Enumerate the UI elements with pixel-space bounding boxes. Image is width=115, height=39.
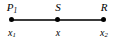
coordinate-label-x-letter: x [56, 27, 60, 38]
coordinate-label-x1-subscript: 1 [13, 31, 16, 38]
point-label-s: S [55, 2, 61, 14]
point-label-p1-letter: P [7, 1, 14, 13]
coordinate-label-x: x [56, 28, 60, 39]
coordinate-label-x2-subscript: 2 [105, 31, 108, 38]
number-line-diagram: P1 x1 S x R x2 [0, 0, 115, 39]
point-label-p1: P1 [7, 2, 17, 14]
point-marker-r [101, 17, 106, 22]
point-label-r: R [101, 2, 108, 14]
point-marker-p1 [9, 17, 14, 22]
coordinate-label-x2: x2 [100, 28, 108, 39]
point-marker-s [55, 17, 60, 22]
coordinate-label-x1: x1 [8, 28, 16, 39]
point-label-r-letter: R [101, 1, 108, 13]
point-label-s-letter: S [55, 1, 61, 13]
point-label-p1-subscript: 1 [14, 6, 18, 15]
